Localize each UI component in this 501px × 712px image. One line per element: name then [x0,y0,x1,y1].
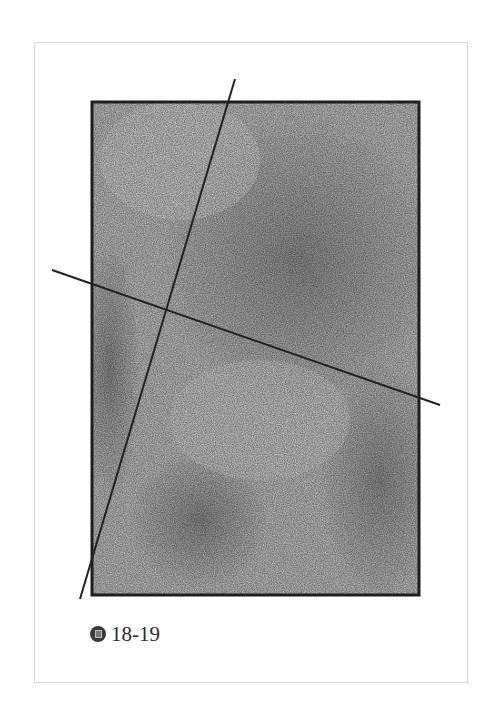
figure-badge-icon [90,626,106,642]
shaded-rectangle [80,100,440,600]
figure-drawing [0,0,501,712]
figure-caption: 18-19 [90,622,160,646]
figure-number: 18-19 [111,622,160,646]
